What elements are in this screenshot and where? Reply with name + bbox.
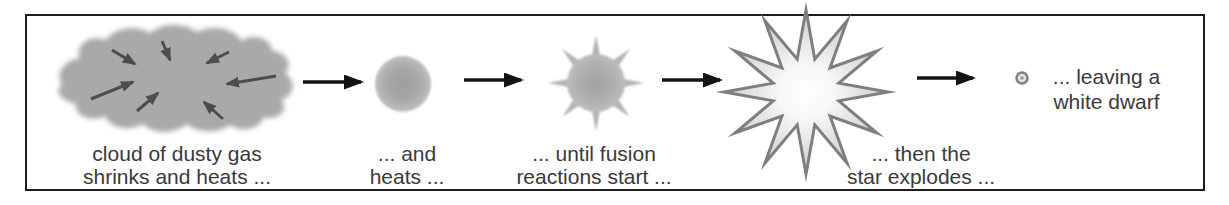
label-fusion-star: ... until fusion reactions start ... xyxy=(479,142,709,188)
label-line: heats ... xyxy=(342,165,472,188)
label-line: star explodes ... xyxy=(829,165,1013,188)
label-line: white dwarf xyxy=(1034,89,1179,114)
protostar-icon xyxy=(375,56,431,112)
label-line: ... until fusion xyxy=(479,142,709,165)
label-white-dwarf: ... leaving a white dwarf xyxy=(1034,64,1179,114)
gas-cloud-icon xyxy=(59,25,293,132)
label-gas-cloud: cloud of dusty gas shrinks and heats ... xyxy=(47,142,307,188)
label-line: shrinks and heats ... xyxy=(47,165,307,188)
label-line: reactions start ... xyxy=(479,165,709,188)
label-protostar: ... and heats ... xyxy=(342,142,472,188)
label-line: ... leaving a xyxy=(1034,64,1179,89)
label-supernova: ... then the star explodes ... xyxy=(829,142,1013,188)
fusion-star-icon xyxy=(548,35,644,131)
label-line: ... and xyxy=(342,142,472,165)
white-dwarf-icon xyxy=(1017,73,1028,84)
label-line: cloud of dusty gas xyxy=(47,142,307,165)
star-lifecycle-diagram: cloud of dusty gas shrinks and heats ...… xyxy=(0,0,1229,205)
label-line: ... then the xyxy=(829,142,1013,165)
